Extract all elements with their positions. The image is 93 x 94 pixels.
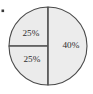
- slice-label-right: 40%: [62, 40, 79, 50]
- slice-label-lower-left: 25%: [23, 54, 40, 64]
- pie-slice-upper-left: [9, 7, 48, 46]
- slice-label-upper-left: 25%: [22, 28, 39, 38]
- pie-chart-svg: 25% 25% 40%: [0, 0, 93, 94]
- pie-chart-figure: 25% 25% 40%: [0, 0, 93, 94]
- pie-slice-lower-left: [9, 46, 48, 85]
- bullet-dot-icon: [2, 10, 5, 13]
